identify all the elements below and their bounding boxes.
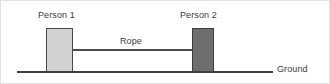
ground-label: Ground [277,64,308,75]
rope-line [72,49,193,51]
person-2-block [192,28,214,72]
ground-line [17,71,273,73]
rope-label: Rope [120,36,142,47]
diagram-canvas: Person 1 Person 2 Rope Ground [0,0,330,84]
person-1-label: Person 1 [38,10,75,21]
person-1-block [46,28,73,72]
person-2-label: Person 2 [180,10,217,21]
